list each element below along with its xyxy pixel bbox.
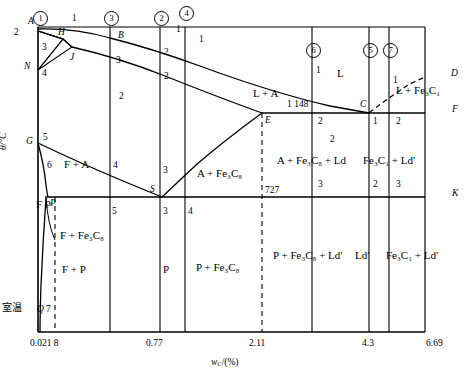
phase-number: 4 [42, 69, 47, 79]
phase-number: 1 [393, 76, 398, 86]
region-label-L-plus-A: L + A [253, 88, 278, 99]
phase-number: 7 [46, 305, 51, 315]
region-label-Fe3C-Ld: Fe₃C₁ + Ld′ [363, 155, 415, 166]
phase-number: 4 [113, 161, 118, 171]
circled-number-3: 3 [104, 11, 119, 26]
phase-number: 1 [72, 14, 77, 24]
circled-number-7: 7 [383, 43, 398, 58]
x-tick-label: 2.11 [249, 339, 265, 349]
point-label-S: S [150, 185, 155, 195]
region-label-Ld-prime: Ld′ [355, 250, 370, 261]
region-label-L-plus-Fe3C: L + Fe₃C₁ [396, 85, 440, 96]
phase-number: 5 [43, 133, 48, 143]
point-label-Q: Q [37, 305, 44, 315]
point-label-J: J [70, 53, 74, 63]
x-axis-label: wC/(%) [211, 358, 239, 368]
phase-number: 1 [316, 66, 321, 76]
point-label-C: C [360, 100, 366, 110]
phase-number: 2 [119, 92, 124, 102]
region-label-P: P [163, 264, 169, 275]
phase-number: 5 [112, 207, 117, 217]
temp-eutectoid-727: 727 [265, 186, 279, 196]
hj-line [63, 39, 72, 47]
room-temperature-label: 室温 [2, 303, 22, 313]
region-label-F-plus-Fe3C: F + Fe₃C₈ [60, 230, 104, 241]
phase-number: 3 [318, 180, 323, 190]
point-label-G: G [26, 137, 33, 147]
phase-number: 2 [14, 28, 19, 38]
phase-number: 2 [330, 135, 335, 145]
region-label-Fe3C-I-Ld: Fe₃C₁ + Ld′ [386, 250, 438, 261]
region-label-F-P-small: F P [36, 199, 51, 210]
point-label-H: H [58, 28, 65, 38]
phase-number: 3 [42, 43, 47, 53]
phase-number: 2 [318, 117, 323, 127]
phase-number: 2 [373, 180, 378, 190]
phase-number: 3 [163, 166, 168, 176]
phase-diagram-figure: 1 3 2 4 6 5 7 A B C D E F G H J K N P Q … [0, 0, 464, 374]
point-label-B: B [118, 31, 124, 41]
point-label-N: N [24, 62, 30, 72]
phase-number: 4 [188, 207, 193, 217]
region-label-F-plus-A: F + A [64, 159, 89, 170]
region-label-A-plus-Fe3C: A + Fe₃C₈ [197, 168, 242, 179]
phase-number: 2 [396, 117, 401, 127]
temp-eutectic-1148: 1 148 [287, 100, 308, 110]
phase-number: 6 [47, 161, 52, 171]
point-label-K: K [452, 189, 458, 199]
point-label-A: A [28, 17, 34, 27]
point-label-D: D [451, 69, 458, 79]
phase-number: 3 [116, 56, 121, 66]
phase-number: 1 [373, 117, 378, 127]
phase-number: 2 [164, 72, 169, 82]
x-tick-label: 0.021 8 [30, 339, 59, 349]
x-axis-units: /(%) [222, 357, 239, 367]
region-label-P-plus-Fe3C: P + Fe₃C₈ [196, 262, 239, 273]
circled-number-5: 5 [363, 43, 378, 58]
point-label-E: E [265, 116, 271, 126]
circled-number-6: 6 [306, 43, 321, 58]
circled-number-1: 1 [33, 11, 48, 26]
x-tick-label: 0.77 [146, 339, 163, 349]
circled-number-4: 4 [179, 6, 194, 21]
region-label-P-Fe3C-Ld: P + Fe₃C₈ + Ld′ [273, 250, 343, 261]
phase-number: 3 [163, 207, 168, 217]
phase-number: 3 [396, 180, 401, 190]
region-label-F-plus-P: F + P [62, 264, 86, 275]
acm-line-es [162, 113, 262, 197]
circled-number-2: 2 [154, 11, 169, 26]
region-label-A-Fe3C-Ld: A + Fe₃C₈ + Ld [277, 155, 346, 166]
x-tick-label: 4.3 [362, 339, 374, 349]
y-axis-label: θ/°C [0, 133, 9, 150]
phase-number: 2 [164, 48, 169, 58]
point-label-F: F [452, 105, 458, 115]
region-label-L: L [337, 68, 344, 79]
a3-line-gs [38, 143, 162, 197]
phase-number: 1 [199, 35, 204, 45]
phase-number: 1 [176, 25, 181, 35]
x-tick-label: 6.69 [426, 339, 443, 349]
